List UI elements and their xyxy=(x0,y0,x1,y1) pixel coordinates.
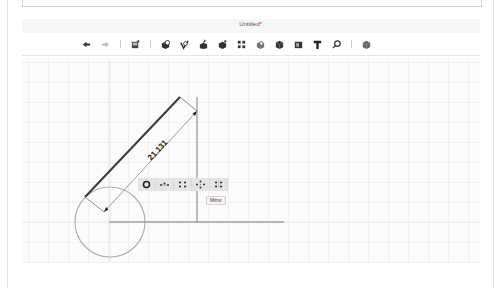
dimension-extension-line xyxy=(85,197,104,212)
circular-pattern-icon xyxy=(195,180,206,189)
circular-pattern-button[interactable] xyxy=(192,178,209,191)
grid-pattern-icon xyxy=(177,180,188,189)
dimension-extension-line xyxy=(180,97,197,111)
mirror-tooltip: Mirror xyxy=(206,196,226,205)
mirror-button[interactable] xyxy=(210,178,227,191)
concentric-button[interactable] xyxy=(138,178,155,191)
grid-pattern-button[interactable] xyxy=(174,178,191,191)
horizontal-distance-button[interactable] xyxy=(156,178,173,191)
origin-point[interactable] xyxy=(109,221,111,223)
context-toolbar xyxy=(138,178,228,191)
horizontal-distance-icon xyxy=(159,180,170,189)
mirror-icon xyxy=(213,180,224,189)
concentric-icon xyxy=(141,180,152,189)
